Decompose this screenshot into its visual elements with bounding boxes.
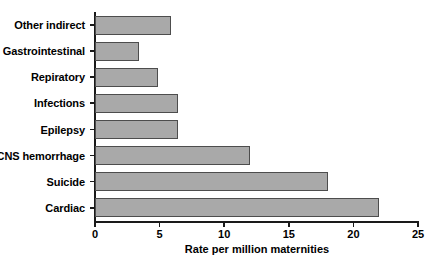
bar-row [95, 16, 418, 35]
y-axis-tick [90, 181, 95, 183]
bar [95, 172, 328, 191]
category-label: Gastrointestinal [3, 45, 89, 57]
x-axis-tick [288, 221, 290, 227]
y-axis-tick [90, 129, 95, 131]
x-axis-tick-label: 15 [283, 228, 295, 241]
x-axis-tick-label: 20 [347, 228, 359, 241]
y-axis-tick [90, 207, 95, 209]
bar-row [95, 172, 418, 191]
x-axis-tick-labels: 0510152025 [95, 228, 419, 242]
x-axis-tick-label: 5 [157, 228, 163, 241]
y-axis-tick [90, 76, 95, 78]
category-axis-labels: Other indirect Gastrointestinal Repirato… [0, 12, 89, 221]
x-axis-tick-label: 10 [218, 228, 230, 241]
category-label: Epilepsy [41, 124, 89, 136]
x-axis-tick [223, 221, 225, 227]
bar-row [95, 94, 418, 113]
y-axis-tick [90, 155, 95, 157]
bar-row [95, 42, 418, 61]
category-label: Suicide [47, 176, 89, 188]
bar [95, 42, 139, 61]
bar-chart: Other indirect Gastrointestinal Repirato… [0, 0, 436, 264]
bar-row [95, 68, 418, 87]
bar-row [95, 198, 418, 217]
x-axis-title: Rate per million maternities [95, 243, 419, 255]
bar [95, 198, 379, 217]
bar [95, 120, 178, 139]
bar [95, 94, 178, 113]
x-axis-ticks [95, 221, 419, 227]
bar-row [95, 146, 418, 165]
bar [95, 68, 158, 87]
x-axis-tick [417, 221, 419, 227]
y-axis-tick [90, 102, 95, 104]
x-axis-tick-label: 25 [412, 228, 424, 241]
bar-row [95, 120, 418, 139]
category-label: CNS hemorrhage [0, 150, 89, 162]
x-axis-tick [353, 221, 355, 227]
plot-area [95, 12, 418, 221]
category-label: Cardiac [45, 202, 89, 214]
bar-series [95, 12, 418, 221]
x-axis-tick-label: 0 [92, 228, 98, 241]
bar [95, 146, 250, 165]
x-axis-tick [159, 221, 161, 227]
bar [95, 16, 171, 35]
y-axis-tick [90, 24, 95, 26]
y-axis-tick [90, 50, 95, 52]
category-label: Repiratory [31, 71, 89, 83]
x-axis-tick [94, 221, 96, 227]
category-label: Infections [34, 97, 89, 109]
category-label: Other indirect [14, 19, 89, 31]
